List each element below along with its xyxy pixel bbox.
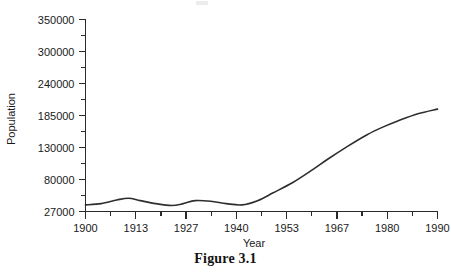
y-axis-tick-label: 80000 [44, 174, 75, 186]
x-axis-title: Year [243, 237, 266, 249]
y-axis-tick-label: 185000 [38, 110, 75, 122]
chart-figure: 2700080000130000185000240000300000350000… [0, 0, 451, 250]
y-axis-title: Population [5, 93, 17, 145]
x-axis-tick-label: 1967 [325, 222, 349, 234]
x-axis-tick-label: 1913 [124, 222, 148, 234]
population-line-chart: 2700080000130000185000240000300000350000… [0, 0, 451, 250]
x-axis-tick-label: 1900 [73, 222, 97, 234]
x-axis-tick-label: 1980 [375, 222, 399, 234]
y-axis-tick-label: 130000 [38, 142, 75, 154]
x-axis-tick-label: 1927 [174, 222, 198, 234]
y-axis-tick-label: 27000 [44, 206, 75, 218]
figure-page: 2700080000130000185000240000300000350000… [0, 0, 451, 275]
x-axis-tick-label: 1953 [274, 222, 298, 234]
axis-lines [86, 20, 438, 212]
y-axis-ticks [79, 20, 86, 212]
x-axis-ticks [86, 212, 438, 219]
x-axis-tick-label: 1940 [224, 222, 248, 234]
y-axis-tick-labels: 2700080000130000185000240000300000350000 [38, 14, 75, 218]
y-axis-tick-label: 240000 [38, 78, 75, 90]
x-axis-tick-labels: 19001913192719401953196719801990 [73, 222, 449, 234]
x-axis-tick-label: 1990 [425, 222, 449, 234]
y-axis-tick-label: 300000 [38, 46, 75, 58]
figure-caption: Figure 3.1 [0, 251, 451, 267]
y-axis-tick-label: 350000 [38, 14, 75, 26]
population-data-line [86, 109, 438, 205]
